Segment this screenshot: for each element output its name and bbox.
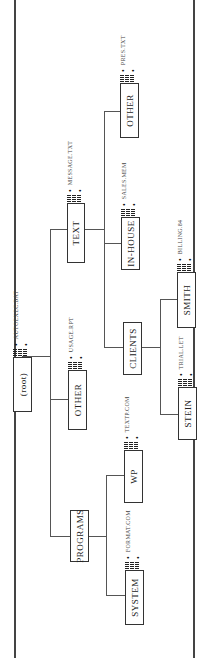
ellipsis-icon: •• (126, 556, 142, 559)
file-stack-icon (178, 379, 192, 386)
file-group-other-root: •• USAGE.RPT (68, 317, 85, 369)
file-name: PRES.TXT (120, 35, 127, 65)
connector-wp (106, 475, 124, 476)
node-label: CLIENTS (128, 328, 138, 369)
file-group-stein: •• TRIAL.LET (178, 336, 195, 386)
node-other-root[interactable]: OTHER (68, 370, 87, 430)
file-group-wp: •• TEXTP.COM (124, 396, 141, 449)
node-smith[interactable]: SMITH (177, 272, 196, 328)
file-name: TEXTP.COM (124, 396, 131, 432)
file-name: FORMAT.COM (125, 510, 132, 552)
ellipsis-icon: •• (121, 69, 137, 72)
node-label: OTHER (125, 94, 135, 127)
node-label: SMITH (182, 285, 192, 316)
file-name: MESSAGE.TXT (67, 141, 74, 185)
file-group-other-text: •• PRES.TXT (120, 35, 137, 82)
connector-programs-down (89, 536, 106, 537)
node-label: TEXT (71, 221, 81, 246)
connector-system (106, 595, 125, 596)
node-label: STEIN (183, 400, 193, 428)
node-inhouse[interactable]: IN-HOUSE (121, 217, 140, 270)
file-name: SALES.MEM (121, 162, 128, 199)
file-stack-icon (120, 75, 134, 82)
connector-inhouse (104, 243, 121, 244)
file-group-system: •• FORMAT.COM (125, 510, 142, 569)
file-stack-icon (67, 195, 81, 202)
file-stack-icon (177, 264, 191, 271)
file-name: AUTOEXEC.BAT (13, 291, 20, 340)
ellipsis-icon: •• (179, 373, 195, 376)
file-stack-icon (13, 349, 27, 356)
connector-clients-down (142, 347, 160, 348)
file-stack-icon (121, 209, 135, 216)
file-name: BILLING.84 (177, 220, 184, 255)
node-label: PROGRAMS (75, 509, 85, 563)
file-group-smith: •• BILLING.84 (177, 220, 194, 271)
node-text[interactable]: TEXT (67, 203, 85, 263)
node-wp[interactable]: WP (124, 450, 143, 503)
connector-smith (160, 299, 177, 300)
ellipsis-icon: •• (125, 436, 141, 439)
connector-text-down (84, 229, 104, 230)
ellipsis-icon: •• (178, 258, 194, 261)
connector-clients (104, 347, 123, 348)
node-root[interactable]: (root) (13, 357, 32, 412)
node-programs[interactable]: PROGRAMS (70, 510, 89, 562)
file-stack-icon (124, 442, 138, 449)
file-group-inhouse: •• SALES.MEM (121, 162, 138, 216)
connector-other-text (104, 111, 120, 112)
file-stack-icon (125, 562, 139, 569)
ellipsis-icon: •• (68, 189, 84, 192)
node-label: SYSTEM (130, 578, 140, 617)
node-system[interactable]: SYSTEM (125, 570, 144, 625)
file-stack-icon (68, 362, 82, 369)
connector-programs-bus (106, 476, 107, 596)
node-clients[interactable]: CLIENTS (123, 322, 142, 375)
connector-level1-bus (50, 229, 51, 537)
node-label: OTHER (73, 384, 83, 417)
node-stein[interactable]: STEIN (178, 387, 197, 440)
node-label: WP (129, 469, 139, 484)
node-label: (root) (18, 373, 28, 397)
file-group-root: •• AUTOEXEC.BAT (13, 291, 30, 356)
ellipsis-icon: •• (122, 203, 138, 206)
connector-clients-bus (160, 300, 161, 415)
file-name: TRIAL.LET (178, 336, 185, 369)
directory-tree-diagram: (root) TEXT OTHER PROGRAMS OTHER IN-HOUS… (0, 0, 208, 658)
node-other-text[interactable]: OTHER (120, 83, 139, 138)
ellipsis-icon: •• (14, 343, 30, 346)
connector-text-bus (104, 112, 105, 348)
bottom-border (193, 0, 195, 658)
file-name: USAGE.RPT (68, 317, 75, 352)
connector-stein (160, 414, 178, 415)
node-label: IN-HOUSE (126, 220, 136, 267)
ellipsis-icon: •• (69, 356, 85, 359)
file-group-text: •• MESSAGE.TXT (67, 141, 84, 202)
